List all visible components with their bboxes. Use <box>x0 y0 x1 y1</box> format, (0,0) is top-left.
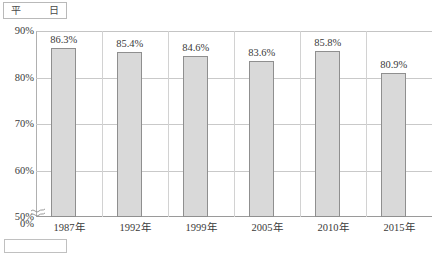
footer-label-box <box>4 239 67 253</box>
header-label-left: 平 <box>11 6 21 16</box>
bar <box>183 56 208 217</box>
category-separator <box>102 31 103 217</box>
category-separator <box>234 31 235 217</box>
bar <box>51 48 76 217</box>
axis-break-icon <box>30 205 46 218</box>
y-axis-tick-label: 60% <box>0 166 34 177</box>
bar-value-label: 85.8% <box>293 38 363 49</box>
category-separator <box>366 31 367 217</box>
bar <box>117 52 142 217</box>
header-label-box: 平 日 <box>3 2 67 19</box>
bar-value-label: 80.9% <box>359 60 429 71</box>
bar-value-label: 83.6% <box>227 48 297 59</box>
category-separator <box>300 31 301 217</box>
y-axis-tick-label: 70% <box>0 119 34 130</box>
bar-value-label: 84.6% <box>161 43 231 54</box>
y-axis-tick-label: 0% <box>0 219 34 230</box>
category-separator <box>168 31 169 217</box>
x-axis-category-label: 2015年 <box>360 223 434 234</box>
bar-value-label: 86.3% <box>29 35 99 46</box>
bar <box>381 73 406 217</box>
bar <box>249 61 274 217</box>
y-axis-tick-label: 80% <box>0 73 34 84</box>
bar-chart: 86.3%85.4%84.6%83.6%85.8%80.9% 90%80%70%… <box>0 22 434 234</box>
header-label-right: 日 <box>49 6 59 16</box>
bar <box>315 51 340 217</box>
bar-value-label: 85.4% <box>95 39 165 50</box>
y-axis-tick-label: 90% <box>0 26 34 37</box>
